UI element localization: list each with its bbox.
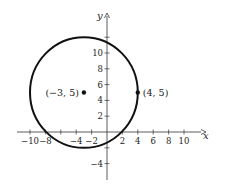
x-tick-label: 8 [166,136,171,146]
x-tick-label: −8 [39,136,52,146]
y-tick-label: −4 [90,159,103,169]
y-tick-label: 8 [98,64,103,74]
x-tick-label: 2 [120,136,125,146]
axis-ticks: −10−8−4−2246810−4246810 [21,37,189,168]
point-label: (4, 5) [143,87,169,98]
y-tick-label: 6 [98,80,103,90]
x-tick-label: 6 [150,136,155,146]
y-tick-label: 10 [92,48,103,58]
x-tick-label: −10 [21,136,39,146]
y-tick-label: 4 [98,95,103,105]
circle-graph: −10−8−4−2246810−4246810 (−3, 5)(4, 5) x … [0,0,225,186]
x-tick-label: 4 [135,136,140,146]
point-marker [82,90,86,94]
point-label: (−3, 5) [45,87,79,98]
x-axis-label: x [203,130,209,141]
x-tick-label: −4 [70,136,83,146]
x-tick-label: −2 [85,136,98,146]
y-axis-label: y [96,10,103,21]
y-tick-label: 2 [98,111,103,121]
x-tick-label: 10 [179,136,190,146]
point-marker [136,90,140,94]
